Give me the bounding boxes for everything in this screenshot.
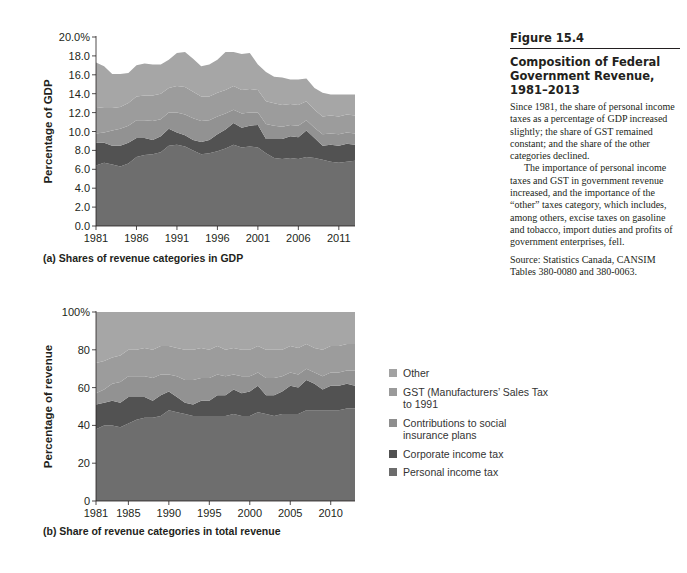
legend-label: GST (Manufacturers’ Sales Tax to 1991 bbox=[403, 386, 549, 411]
legend-swatch-social-insurance bbox=[389, 419, 397, 427]
area-personal-income-tax bbox=[96, 408, 355, 501]
legend-item-gst: GST (Manufacturers’ Sales Tax to 1991 bbox=[389, 386, 549, 411]
chart-gdp-shares: 0.02.04.06.08.010.012.014.016.018.020.0%… bbox=[42, 31, 355, 244]
svg-text:8.0: 8.0 bbox=[75, 144, 90, 156]
svg-text:2006: 2006 bbox=[286, 232, 310, 244]
figure-title: Composition of Federal Government Revenu… bbox=[510, 55, 680, 97]
svg-text:2011: 2011 bbox=[327, 232, 351, 244]
legend-label: Contributions to social insurance plans bbox=[403, 417, 549, 442]
svg-text:1996: 1996 bbox=[205, 232, 229, 244]
svg-text:1981: 1981 bbox=[84, 232, 108, 244]
legend-swatch-gst bbox=[389, 388, 397, 396]
svg-text:100%: 100% bbox=[62, 306, 90, 318]
svg-text:4.0: 4.0 bbox=[75, 182, 90, 194]
legend-item-corporate: Corporate income tax bbox=[389, 448, 549, 461]
svg-text:1986: 1986 bbox=[124, 232, 148, 244]
svg-text:1981: 1981 bbox=[84, 507, 108, 519]
svg-text:12.0: 12.0 bbox=[69, 107, 90, 119]
legend-label: Other bbox=[403, 367, 429, 380]
svg-text:6.0: 6.0 bbox=[75, 163, 90, 175]
svg-text:1985: 1985 bbox=[116, 507, 140, 519]
chart-a-caption: (a) Shares of revenue categories in GDP bbox=[43, 252, 243, 264]
figure-description-panel: Figure 15.4 Composition of Federal Gover… bbox=[510, 31, 680, 278]
svg-text:2.0: 2.0 bbox=[75, 201, 90, 213]
svg-text:0.0: 0.0 bbox=[75, 220, 90, 232]
svg-text:40: 40 bbox=[78, 419, 90, 431]
chart-b-caption: (b) Share of revenue categories in total… bbox=[43, 525, 281, 537]
legend-swatch-corporate bbox=[389, 450, 397, 458]
svg-text:60: 60 bbox=[78, 382, 90, 394]
figure-paragraph-1: Since 1981, the share of personal income… bbox=[510, 101, 680, 162]
svg-text:18.0: 18.0 bbox=[69, 50, 90, 62]
figure-source: Source: Statistics Canada, CANSIM Tables… bbox=[510, 254, 680, 279]
svg-text:14.0: 14.0 bbox=[69, 88, 90, 100]
svg-text:Percentage of revenue: Percentage of revenue bbox=[42, 345, 54, 468]
legend-swatch-other bbox=[389, 369, 397, 377]
legend-label: Corporate income tax bbox=[403, 448, 503, 461]
svg-text:16.0: 16.0 bbox=[69, 69, 90, 81]
svg-text:Percentage of GDP: Percentage of GDP bbox=[42, 79, 54, 183]
figure-number: Figure 15.4 bbox=[510, 31, 680, 49]
legend-swatch-personal bbox=[389, 468, 397, 476]
svg-text:2005: 2005 bbox=[278, 507, 302, 519]
figure-paragraph-2: The importance of personal income taxes … bbox=[510, 162, 680, 248]
svg-text:1991: 1991 bbox=[165, 232, 189, 244]
svg-text:20: 20 bbox=[78, 457, 90, 469]
svg-text:20.0%: 20.0% bbox=[59, 31, 90, 43]
legend-item-social-insurance: Contributions to social insurance plans bbox=[389, 417, 549, 442]
svg-text:2000: 2000 bbox=[238, 507, 262, 519]
chart-revenue-shares: 020406080100%198119851990199520002005201… bbox=[42, 306, 355, 519]
legend-label: Personal income tax bbox=[403, 466, 498, 479]
chart-legend: Other GST (Manufacturers’ Sales Tax to 1… bbox=[389, 367, 549, 485]
svg-text:80: 80 bbox=[78, 344, 90, 356]
legend-item-personal: Personal income tax bbox=[389, 466, 549, 479]
svg-text:1990: 1990 bbox=[157, 507, 181, 519]
svg-text:2010: 2010 bbox=[318, 507, 342, 519]
svg-text:2001: 2001 bbox=[246, 232, 270, 244]
svg-text:1995: 1995 bbox=[197, 507, 221, 519]
svg-text:10.0: 10.0 bbox=[69, 126, 90, 138]
svg-text:0: 0 bbox=[84, 495, 90, 507]
legend-item-other: Other bbox=[389, 367, 549, 380]
